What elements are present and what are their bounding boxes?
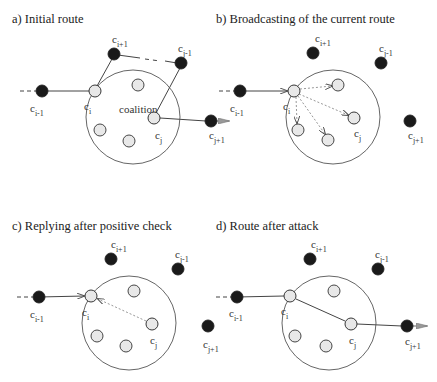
node-c-i-1 [234,85,246,97]
panel-title: a) Initial route [12,12,84,26]
node-label: cj-1 [375,248,389,264]
panels-layer: a) Initial routecoalitionci-1cici+1cj-1c… [12,12,424,370]
node-c-j+1 [404,115,416,127]
panel-c: c) Replying after positive checkci-1cici… [12,219,219,370]
route-edge [97,59,112,86]
coalition-member-node [132,79,144,91]
node-label: cj-1 [379,42,393,58]
node-c-i+1 [304,253,316,265]
node-label: ci [82,306,90,322]
node-label: cj [155,129,162,145]
node-label: ci-1 [230,102,244,118]
diagram-canvas: a) Initial routecoalitionci-1cici+1cj-1c… [0,0,437,382]
node-label: ci+1 [112,33,128,49]
broadcast-edge [300,86,332,89]
node-label: ci+1 [315,32,331,48]
node-label: ci-1 [30,308,44,324]
panel-title: c) Replying after positive check [12,219,172,233]
node-c-j [345,318,357,330]
node-c-j [148,112,160,124]
panel-d: d) Route after attackci-1cici+1cj-1cjcj+… [216,219,421,370]
node-label: cj+1 [209,129,225,145]
node-label: cj+1 [203,338,219,354]
broadcast-edge [296,97,297,123]
node-label: cj-1 [178,42,192,58]
node-c-i [284,290,296,302]
node-c-i-1 [36,85,48,97]
node-c-j-1 [375,57,387,69]
coalition-member-node [128,285,140,297]
node-c-j+1 [205,115,217,127]
edges-layer [17,55,427,326]
node-c-j+1 [202,320,214,332]
broadcast-edge [299,94,348,115]
route-arrow-edge [39,296,84,297]
panel-title: d) Route after attack [216,219,319,233]
node-label: ci-1 [30,102,44,118]
node-label: cj+1 [408,129,424,145]
route-edge [118,55,140,58]
node-label: ci+1 [311,238,327,254]
node-label: cj [150,334,157,350]
coalition-member-node [320,340,332,352]
node-label: cj-1 [175,248,189,264]
node-c-j-1 [172,263,184,275]
route-edge [156,68,180,113]
node-c-j [348,112,360,124]
panel-a: a) Initial routecoalitionci-1cici+1cj-1c… [12,12,225,164]
node-c-i+1 [307,47,319,59]
node-c-i-1 [33,291,45,303]
node-c-i-1 [231,291,243,303]
node-label: ci [84,100,92,116]
coalition-member-node [289,330,301,342]
node-label: ci [283,100,291,116]
reply-edge [98,299,146,321]
node-label: ci+1 [111,238,127,254]
route-edge [296,299,345,321]
route-dashed-edge [145,59,160,61]
node-c-i+1 [108,48,120,60]
coalition-member-node [332,79,344,91]
node-label: cj+1 [405,335,421,351]
panel-b: b) Broadcasting of the current routeci-1… [216,12,424,164]
route-edge [160,118,206,121]
node-label: cj [349,334,356,350]
node-c-i [85,290,97,302]
coalition-member-node [91,330,103,342]
node-label: cj [354,127,361,143]
coalition-member-node [120,340,132,352]
node-c-i [89,85,101,97]
route-edge [237,296,284,297]
node-c-j-1 [175,57,187,69]
node-c-j [146,318,158,330]
coalition-member-node [123,135,135,147]
route-edge [357,324,402,326]
coalition-member-node [94,124,106,136]
node-c-j+1 [401,320,413,332]
coalition-member-node [322,134,334,146]
node-c-i+1 [105,253,117,265]
node-label: ci-1 [229,307,243,323]
node-c-i [288,85,300,97]
node-c-j-1 [372,263,384,275]
panel-title: b) Broadcasting of the current route [216,12,395,26]
coalition-member-node [328,285,340,297]
coalition-member-node [292,124,304,136]
